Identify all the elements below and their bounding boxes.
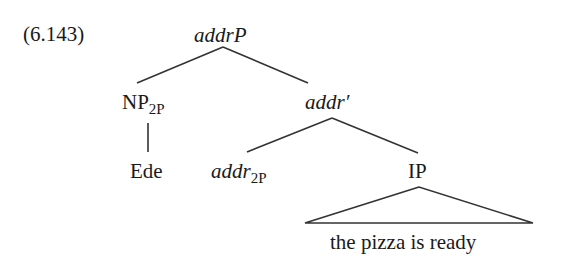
yield-text: the pizza is ready <box>330 232 476 253</box>
node-NP-label: NP <box>122 90 149 114</box>
node-addr-label: addr <box>211 159 251 183</box>
node-addr-bar: addr′ <box>305 92 349 113</box>
node-Ede: Ede <box>130 161 163 182</box>
node-IP: IP <box>408 161 427 182</box>
edge-addrbar-IP <box>332 118 418 153</box>
edge-addrP-NP <box>137 47 223 83</box>
node-addrP: addrP <box>194 25 247 46</box>
example-number: (6.143) <box>23 24 84 45</box>
tree-edges <box>0 0 562 271</box>
edge-addrP-addrbar <box>223 47 308 83</box>
node-addr-subscript: 2P <box>251 170 267 186</box>
node-NP-subscript: 2P <box>149 101 165 117</box>
edge-addrbar-addr <box>247 118 332 152</box>
node-NP-2P: NP2P <box>122 92 165 113</box>
triangle-IP <box>305 187 533 223</box>
node-addr-2P: addr2P <box>211 161 267 182</box>
